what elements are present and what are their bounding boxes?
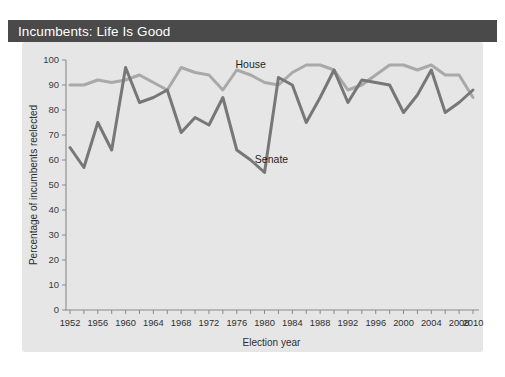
chart-figure: Incumbents: Life Is Good 010203040506070… — [0, 0, 505, 377]
page-title: Incumbents: Life Is Good — [8, 24, 170, 39]
plot-panel-background — [22, 42, 483, 352]
chart-title-bar: Incumbents: Life Is Good — [8, 20, 497, 42]
